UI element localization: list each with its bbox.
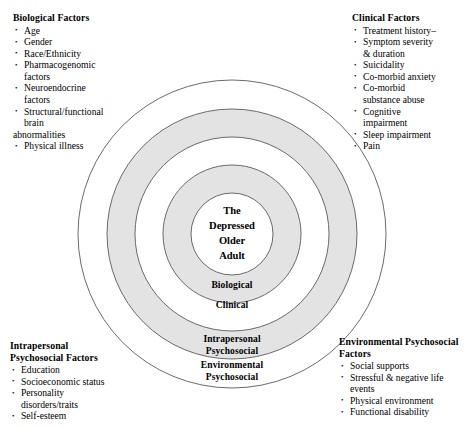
biological-factors-heading: Biological Factors (13, 12, 159, 24)
list-item: Treatment history– (352, 25, 464, 37)
list-item: Age (13, 25, 159, 37)
list-item: Gender (13, 36, 159, 48)
heading-line-1: Intrapersonal (10, 340, 68, 351)
heading-line-1: Environmental Psychosocial (339, 336, 458, 347)
biological-factors-list: Age Gender Race/Ethnicity Pharmacogenomi… (13, 25, 159, 153)
list-item-continuation: substance abuse (352, 94, 464, 106)
list-item: Physical environment (339, 395, 464, 407)
list-item-continuation: factors (13, 71, 159, 83)
list-item-continuation: events (339, 383, 464, 395)
list-item: Self-esteem (10, 410, 160, 422)
clinical-factors-list: Treatment history– Symptom severity & du… (352, 25, 464, 153)
core-label: The Depressed Older Adult (0, 203, 464, 263)
list-item: Co-morbid (352, 82, 464, 94)
environmental-psychosocial-factors-block: Environmental Psychosocial Factors Socia… (339, 336, 464, 418)
environmental-psychosocial-factors-list: Social supports Stressful & negative lif… (339, 360, 464, 418)
list-item: Education (10, 364, 160, 376)
ring-label-biological: Biological (0, 280, 464, 292)
biological-factors-block: Biological Factors Age Gender Race/Ethni… (13, 12, 159, 152)
list-item: Personality (10, 387, 160, 399)
heading-line-2: Factors (339, 348, 371, 359)
list-item: Physical illness (13, 140, 159, 152)
ring-label-clinical: Clinical (0, 300, 464, 312)
list-item: Pain (352, 140, 464, 152)
list-item: Neuroendocrine (13, 82, 159, 94)
list-item: Symptom severity (352, 36, 464, 48)
list-item-continuation: impairment (352, 117, 464, 129)
core-label-line-3: Older (0, 233, 464, 248)
heading-line-2: Psychosocial Factors (10, 352, 98, 363)
list-item: Suicidality (352, 59, 464, 71)
core-label-line-2: Depressed (0, 218, 464, 233)
list-item: Sleep impairment (352, 129, 464, 141)
list-item: Cognitive (352, 106, 464, 118)
list-item: Race/Ethnicity (13, 48, 159, 60)
list-item: Socioeconomic status (10, 376, 160, 388)
list-item: Social supports (339, 360, 464, 372)
list-item-continuation: abnormalities (13, 129, 159, 141)
clinical-factors-block: Clinical Factors Treatment history– Symp… (352, 12, 464, 152)
core-label-line-4: Adult (0, 248, 464, 263)
intrapersonal-psychosocial-factors-block: Intrapersonal Psychosocial Factors Educa… (10, 340, 160, 422)
clinical-factors-heading: Clinical Factors (352, 12, 464, 24)
list-item: Co-morbid anxiety (352, 71, 464, 83)
list-item-continuation: factors (13, 94, 159, 106)
list-item: Pharmacogenomic (13, 59, 159, 71)
list-item-continuation: brain (13, 117, 159, 129)
list-item: Structural/functional (13, 106, 159, 118)
list-item-continuation: disorders/traits (10, 399, 160, 411)
list-item-continuation: & duration (352, 48, 464, 60)
environmental-psychosocial-factors-heading: Environmental Psychosocial Factors (339, 336, 464, 359)
intrapersonal-psychosocial-factors-heading: Intrapersonal Psychosocial Factors (10, 340, 160, 363)
intrapersonal-psychosocial-factors-list: Education Socioeconomic status Personali… (10, 364, 160, 422)
core-label-line-1: The (0, 203, 464, 218)
list-item: Stressful & negative life (339, 372, 464, 384)
list-item: Functional disability (339, 406, 464, 418)
